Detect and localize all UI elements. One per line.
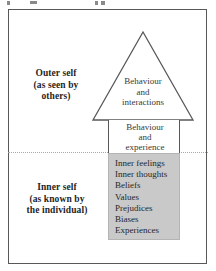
inner-self-label-line-2: (as known by bbox=[10, 194, 104, 206]
arrow-head-triangle: Behaviour and interactions bbox=[91, 30, 195, 122]
outer-self-label: Outer self (as seen by others) bbox=[12, 68, 100, 103]
inner-self-label: Inner self (as known by the individual) bbox=[10, 182, 104, 217]
text-remnant-glyph bbox=[95, 1, 98, 5]
outer-self-label-line-1: Outer self bbox=[12, 68, 100, 80]
self-awareness-diagram: Outer self (as seen by others) Inner sel… bbox=[0, 0, 216, 271]
behaviour-experience-box: Behaviour and experience bbox=[108, 120, 180, 153]
list-item: Experiences bbox=[115, 225, 181, 236]
behaviour-experience-line-1: Behaviour bbox=[109, 122, 181, 132]
triangle-text-line-3: interactions bbox=[91, 97, 195, 108]
triangle-text: Behaviour and interactions bbox=[91, 76, 195, 108]
behaviour-experience-line-3: experience bbox=[109, 142, 181, 152]
list-item: Values bbox=[115, 192, 181, 203]
outer-self-label-line-2: (as seen by bbox=[12, 80, 100, 92]
inner-self-label-line-1: Inner self bbox=[10, 182, 104, 194]
clipped-text-remnants bbox=[0, 0, 216, 7]
behaviour-experience-text: Behaviour and experience bbox=[109, 122, 181, 152]
behaviour-experience-line-2: and bbox=[109, 132, 181, 142]
list-item: Biases bbox=[115, 214, 181, 225]
inner-attributes-list: Inner feelings Inner thoughts Beliefs Va… bbox=[115, 158, 181, 236]
outer-self-label-line-3: others) bbox=[12, 91, 100, 103]
list-item: Beliefs bbox=[115, 180, 181, 191]
triangle-text-line-1: Behaviour bbox=[91, 76, 195, 87]
text-remnant-glyph bbox=[101, 1, 105, 5]
list-item: Inner feelings bbox=[115, 158, 181, 169]
triangle-text-line-2: and bbox=[91, 87, 195, 98]
inner-attributes-box: Inner feelings Inner thoughts Beliefs Va… bbox=[108, 153, 180, 240]
text-remnant-glyph bbox=[30, 1, 37, 4]
list-item: Prejudices bbox=[115, 203, 181, 214]
inner-self-label-line-3: the individual) bbox=[10, 205, 104, 217]
list-item: Inner thoughts bbox=[115, 169, 181, 180]
text-remnant-glyph bbox=[7, 1, 10, 5]
